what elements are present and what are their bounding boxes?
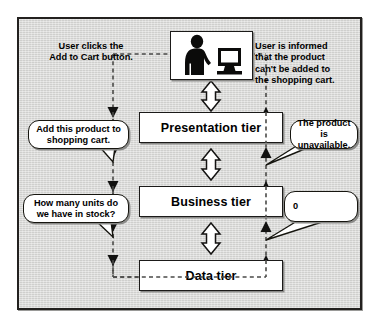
bubble-product-unavailable-text: The product is unavailable.	[296, 118, 352, 151]
bubble-product-unavailable: The product is unavailable.	[290, 120, 358, 149]
connector-user-presentation	[202, 81, 220, 111]
bubble-add-to-cart: Add this product to shopping cart.	[28, 120, 129, 149]
connector-business-data	[202, 223, 220, 254]
note-user-is-informed: User is informed that the product can't …	[255, 41, 357, 87]
tier-presentation: Presentation tier	[139, 112, 283, 143]
bubble-stock-count: 0	[284, 191, 358, 222]
tier-business: Business tier	[139, 186, 283, 217]
tier-presentation-label: Presentation tier	[161, 121, 261, 135]
tier-connector-arrows	[202, 81, 220, 254]
tier-business-label: Business tier	[171, 195, 251, 209]
tier-data: Data tier	[139, 260, 283, 291]
response-flow-path	[251, 54, 266, 277]
request-flow-path	[113, 54, 266, 277]
bubble-units-in-stock: How many units do we have in stock?	[23, 194, 129, 223]
diagram-frame: .dash{stroke:#4a4a48;stroke-width:1.6;st…	[17, 17, 362, 310]
user-at-computer-image	[170, 31, 253, 80]
tier-data-label: Data tier	[186, 269, 237, 283]
connector-presentation-business	[202, 149, 220, 180]
user-at-computer-icon	[171, 32, 252, 79]
diagram-stage: .dash{stroke:#4a4a48;stroke-width:1.6;st…	[19, 19, 360, 308]
bubble-add-to-cart-text: Add this product to shopping cart.	[34, 124, 123, 146]
bubble-stock-count-text: 0	[293, 201, 298, 212]
note-user-clicks-add-to-cart: User clicks the Add to Cart button.	[43, 41, 139, 64]
bubble-units-in-stock-text: How many units do we have in stock?	[29, 198, 123, 220]
